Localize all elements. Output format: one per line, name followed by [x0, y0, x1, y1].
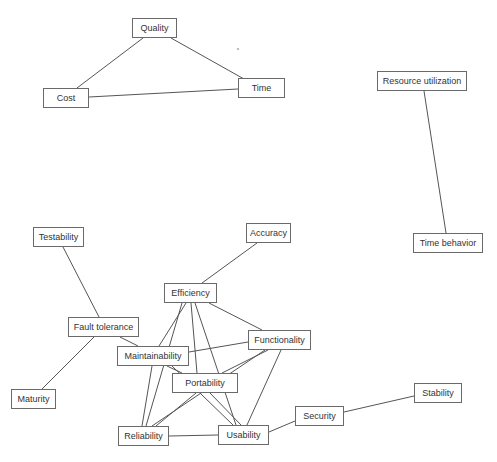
edge-usability-security [269, 421, 295, 432]
node-cost: Cost [43, 88, 89, 108]
edge-maintainability-reliability [142, 366, 152, 426]
edge-efficiency-portability [191, 303, 197, 373]
node-label: Time behavior [420, 238, 477, 248]
edge-portability-reliability [156, 393, 196, 426]
node-stability: Stability [414, 383, 462, 403]
node-label: Maturity [17, 394, 49, 404]
stray-dot [237, 48, 239, 50]
node-maturity: Maturity [11, 389, 56, 409]
node-label: Security [303, 411, 336, 421]
edge-maintainability-portability [167, 366, 182, 373]
edge-efficiency-usability [195, 303, 236, 425]
node-testability: Testability [33, 227, 84, 247]
edge-cost-time [89, 89, 238, 97]
node-label: Usability [226, 430, 260, 440]
node-label: Efficiency [171, 288, 209, 298]
edge-functionality-portability [222, 350, 268, 373]
node-label: Maintainability [124, 351, 181, 361]
node-security: Security [295, 406, 344, 426]
node-fault-tolerance: Fault tolerance [68, 317, 139, 337]
node-resource-utilization: Resource utilization [377, 71, 467, 91]
edge-efficiency-functionality [209, 303, 262, 330]
node-label: Quality [140, 23, 168, 33]
node-label: Cost [57, 93, 76, 103]
edge-quality-time [171, 38, 244, 79]
edge-resource_utilization-time_behavior [424, 91, 446, 233]
node-time-behavior: Time behavior [413, 233, 483, 253]
edge-accuracy-efficiency [202, 243, 257, 283]
node-efficiency: Efficiency [164, 283, 217, 303]
node-maintainability: Maintainability [117, 346, 189, 366]
edge-security-stability [344, 396, 414, 412]
node-time: Time [238, 78, 285, 98]
node-reliability: Reliability [118, 426, 169, 446]
node-label: Functionality [254, 335, 305, 345]
node-label: Time [252, 83, 272, 93]
edge-portability-usability [210, 393, 241, 425]
edge-functionality-usability [247, 350, 281, 425]
edge-testability-fault_tolerance [63, 247, 99, 317]
diagram-canvas: Quality Cost Time Resource utilization T… [0, 0, 497, 462]
edge-efficiency-maintainability [159, 303, 186, 346]
edge-maintainability-functionality [189, 342, 248, 352]
node-functionality: Functionality [248, 330, 311, 350]
node-label: Portability [185, 378, 225, 388]
node-label: Fault tolerance [74, 322, 134, 332]
node-portability: Portability [172, 373, 238, 393]
edge-quality-cost [77, 38, 143, 88]
node-usability: Usability [218, 425, 269, 445]
node-label: Reliability [124, 431, 163, 441]
node-label: Resource utilization [383, 76, 462, 86]
edge-fault_tolerance-maintainability [120, 337, 138, 346]
edge-fault_tolerance-maturity [42, 337, 94, 389]
node-label: Accuracy [250, 228, 287, 238]
node-label: Testability [39, 232, 79, 242]
edge-reliability-usability [169, 435, 218, 436]
node-quality: Quality [132, 18, 177, 38]
node-label: Stability [422, 388, 454, 398]
node-accuracy: Accuracy [246, 223, 291, 243]
